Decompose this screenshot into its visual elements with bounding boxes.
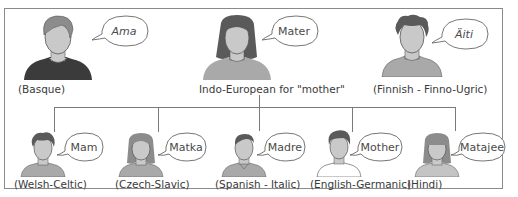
connector-horizontal bbox=[54, 107, 456, 108]
connector-czech bbox=[158, 107, 159, 132]
speech-bubble-hindi: Matajee bbox=[451, 131, 507, 163]
caption-czech: (Czech-Slavic) bbox=[115, 178, 190, 190]
word-spanish: Madre bbox=[257, 131, 307, 163]
caption-welsh: (Welsh-Celtic) bbox=[14, 178, 87, 190]
speech-bubble-basque: Ama bbox=[92, 14, 150, 48]
connector-spanish bbox=[259, 95, 260, 131]
word-indo-european: Mater bbox=[262, 14, 320, 48]
speech-bubble-english: Mother bbox=[350, 131, 404, 163]
basque-person-icon bbox=[22, 13, 94, 80]
word-hindi: Matajee bbox=[451, 131, 507, 163]
word-basque: Ama bbox=[92, 14, 150, 48]
connector-hindi bbox=[455, 107, 456, 131]
caption-english: (English-Germanic) bbox=[310, 178, 411, 190]
speech-bubble-welsh: Mam bbox=[57, 131, 105, 163]
caption-spanish: (Spanish - Italic) bbox=[215, 178, 300, 190]
word-welsh: Mam bbox=[57, 131, 105, 163]
speech-bubble-spanish: Madre bbox=[257, 131, 307, 163]
speech-bubble-indo-european: Mater bbox=[262, 14, 320, 48]
connector-welsh bbox=[54, 107, 55, 132]
caption-basque: (Basque) bbox=[18, 83, 65, 95]
word-english: Mother bbox=[350, 131, 404, 163]
caption-indo-european: Indo-European for "mother" bbox=[199, 83, 345, 95]
word-czech: Matka bbox=[158, 131, 208, 163]
word-finnish: Äiti bbox=[432, 17, 490, 51]
speech-bubble-czech: Matka bbox=[158, 131, 208, 163]
caption-finnish: (Finnish - Finno-Ugric) bbox=[373, 83, 487, 95]
speech-bubble-finnish: Äiti bbox=[432, 17, 490, 51]
caption-hindi: (Hindi) bbox=[407, 178, 442, 190]
